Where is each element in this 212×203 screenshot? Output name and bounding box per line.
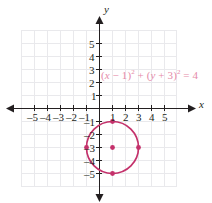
x-tick-label-4: 4 bbox=[149, 112, 155, 123]
point-right bbox=[136, 145, 141, 150]
x-axis-label: x bbox=[199, 99, 204, 110]
equation-equals: = bbox=[181, 69, 193, 81]
equation-annotation: (x − 1)2 + (y + 3)2 = 4 bbox=[101, 70, 198, 81]
y-tick-label-1: 1 bbox=[91, 91, 97, 102]
coordinate-plane-figure: –5 –4 –3 –2 –1 1 2 3 4 5 5 4 3 2 1 –1 –2… bbox=[0, 0, 212, 203]
plot-canvas bbox=[0, 0, 212, 203]
x-axis-arrow-left bbox=[6, 105, 14, 113]
x-axis-arrow-right bbox=[188, 105, 196, 113]
y-axis-arrow-down bbox=[96, 194, 104, 202]
equation-four: 4 bbox=[193, 69, 199, 81]
x-tick-label-3: 3 bbox=[136, 112, 142, 123]
equation-minus: − bbox=[110, 69, 122, 81]
x-tick-label-5: 5 bbox=[162, 112, 168, 123]
y-tick-label-2: 2 bbox=[89, 78, 95, 89]
equation-plus: + bbox=[135, 69, 147, 81]
x-tick-label-2: 2 bbox=[123, 112, 129, 123]
y-tick-label--2: –2 bbox=[84, 130, 95, 141]
x-tick-label--5: –5 bbox=[27, 112, 38, 123]
x-tick-label--3: –3 bbox=[53, 112, 64, 123]
y-tick-label--5: –5 bbox=[84, 169, 95, 180]
equation-plus-2: + bbox=[156, 69, 168, 81]
x-tick-label--2: –2 bbox=[66, 112, 77, 123]
y-axis-label: y bbox=[104, 4, 109, 15]
y-tick-label-4: 4 bbox=[89, 52, 95, 63]
y-tick-label--1: –1 bbox=[84, 117, 95, 128]
y-tick-label--4: –4 bbox=[84, 156, 95, 167]
y-axis-arrow-up bbox=[96, 16, 104, 24]
y-tick-label-3: 3 bbox=[89, 65, 95, 76]
x-tick-label-1: 1 bbox=[110, 112, 116, 123]
y-tick-label--3: –3 bbox=[84, 143, 95, 154]
x-tick-label--4: –4 bbox=[40, 112, 51, 123]
point-bottom bbox=[110, 171, 115, 176]
point-center bbox=[110, 145, 115, 150]
y-tick-label-5: 5 bbox=[89, 39, 95, 50]
